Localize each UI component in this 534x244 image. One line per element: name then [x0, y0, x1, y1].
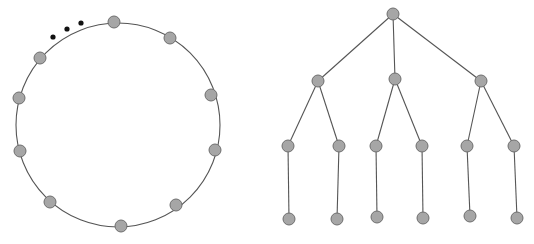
tree-edge-a-a2 [318, 81, 339, 146]
ring-node-8 [13, 92, 25, 104]
tree-node-a2 [333, 140, 345, 152]
tree-edge-c-c1 [467, 81, 481, 146]
tree-node-c [475, 75, 487, 87]
tree-edge-a1-a1x [288, 146, 289, 219]
tree-edge-b2-b2x [422, 146, 423, 218]
tree-node-a2x [331, 213, 343, 225]
tree-node-a1 [282, 140, 294, 152]
tree-edge-c1-c1x [467, 146, 470, 216]
tree-node-root [387, 8, 399, 20]
ring-node-5 [115, 220, 127, 232]
tree-node-c1 [461, 140, 473, 152]
diagram-svg [0, 0, 534, 244]
tree-node-a [312, 75, 324, 87]
ring-node-2 [205, 89, 217, 101]
ring-node-6 [44, 196, 56, 208]
ring-network-diagram [13, 16, 221, 232]
ellipsis-dot-0 [50, 34, 55, 39]
tree-edge-b-b2 [395, 79, 422, 146]
ring-node-1 [164, 32, 176, 44]
diagram-canvas [0, 0, 534, 244]
tree-node-b2x [417, 212, 429, 224]
ring-node-9 [34, 52, 46, 64]
tree-edge-a2-a2x [337, 146, 339, 219]
tree-edge-b-b1 [376, 79, 395, 146]
ring-node-7 [14, 145, 26, 157]
ring-edge [16, 23, 220, 227]
tree-network-diagram [282, 8, 523, 225]
ring-node-0 [108, 16, 120, 28]
tree-edge-root-b [393, 14, 395, 79]
ellipsis-dot-2 [78, 20, 83, 25]
ring-node-3 [209, 144, 221, 156]
tree-node-b2 [416, 140, 428, 152]
ellipsis-dot-1 [64, 26, 69, 31]
tree-node-b [389, 73, 401, 85]
tree-edge-a-a1 [288, 81, 318, 146]
ring-node-4 [170, 199, 182, 211]
tree-node-c2 [508, 140, 520, 152]
tree-edge-c-c2 [481, 81, 514, 146]
tree-node-b1x [371, 211, 383, 223]
tree-node-a1x [283, 213, 295, 225]
tree-edge-c2-c2x [514, 146, 517, 218]
tree-edge-root-c [393, 14, 481, 81]
tree-node-c2x [511, 212, 523, 224]
tree-edge-b1-b1x [376, 146, 377, 217]
tree-edge-root-a [318, 14, 393, 81]
tree-node-c1x [464, 210, 476, 222]
tree-node-b1 [370, 140, 382, 152]
